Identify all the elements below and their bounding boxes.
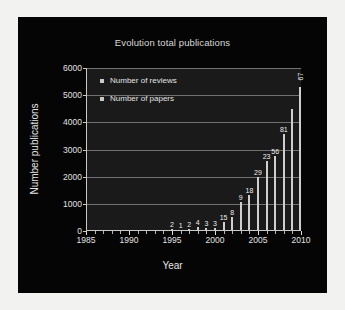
x-tick-minor xyxy=(155,231,156,234)
x-tick-minor xyxy=(112,231,113,234)
bar-papers xyxy=(283,134,285,231)
x-tick-label: 2000 xyxy=(206,235,225,245)
x-tick-label: 1985 xyxy=(77,235,96,245)
x-tick-minor xyxy=(189,231,190,234)
x-axis-line xyxy=(86,230,301,231)
bar-value-label: 4 xyxy=(196,219,200,226)
y-axis-line xyxy=(86,68,87,231)
plot-area: 0100020003000400050006000 19851990199520… xyxy=(86,68,301,231)
bar-value-label: 29 xyxy=(254,169,262,176)
bar-papers xyxy=(248,195,250,231)
x-tick-minor xyxy=(138,231,139,234)
x-tick-minor xyxy=(267,231,268,234)
bar-papers xyxy=(274,156,276,231)
bar-papers xyxy=(240,202,242,231)
x-tick-label: 1990 xyxy=(120,235,139,245)
bar-value-label: 3 xyxy=(204,220,208,227)
x-tick-minor xyxy=(163,231,164,234)
x-tick-label: 1995 xyxy=(163,235,182,245)
bar-papers xyxy=(231,217,233,231)
bar-papers xyxy=(266,161,268,231)
legend-label: Number of reviews xyxy=(110,76,177,85)
y-tick-label: 3000 xyxy=(63,145,82,155)
bar-papers xyxy=(299,87,301,231)
figure-canvas: Evolution total publications Number publ… xyxy=(0,0,345,310)
x-tick-minor xyxy=(224,231,225,234)
x-tick-minor xyxy=(284,231,285,234)
x-tick-minor xyxy=(181,231,182,234)
chart-title: Evolution total publications xyxy=(18,37,327,48)
bar-value-label: 67 xyxy=(297,73,304,81)
bar-value-label: 23 xyxy=(263,153,271,160)
x-tick-minor xyxy=(103,231,104,234)
gridline xyxy=(86,122,301,123)
bar-papers xyxy=(257,177,259,231)
bar-value-label: 3 xyxy=(213,220,217,227)
y-tick-label: 6000 xyxy=(63,63,82,73)
bar-value-label: 9 xyxy=(239,194,243,201)
x-tick-minor xyxy=(275,231,276,234)
bar-value-label: 1 xyxy=(179,222,183,229)
bar-value-label: 2 xyxy=(187,221,191,228)
y-axis-label: Number publications xyxy=(29,103,40,194)
x-tick-minor xyxy=(206,231,207,234)
y-tick-label: 4000 xyxy=(63,117,82,127)
gridline xyxy=(86,177,301,178)
gridline xyxy=(86,204,301,205)
x-tick-label: 2010 xyxy=(292,235,311,245)
bar-value-label: 81 xyxy=(280,126,288,133)
x-tick-minor xyxy=(198,231,199,234)
x-tick-minor xyxy=(146,231,147,234)
x-tick-minor xyxy=(241,231,242,234)
gridline xyxy=(86,68,301,69)
legend-square-marker-icon xyxy=(100,97,104,101)
chart-panel: Evolution total publications Number publ… xyxy=(18,17,327,293)
x-tick-minor xyxy=(292,231,293,234)
bar-value-label: 18 xyxy=(245,187,253,194)
bar-value-label: 56 xyxy=(271,148,279,155)
x-tick-label: 2005 xyxy=(249,235,268,245)
y-tick-label: 1000 xyxy=(63,199,82,209)
bar-value-label: 2 xyxy=(170,221,174,228)
x-tick-minor xyxy=(232,231,233,234)
x-axis-label: Year xyxy=(18,260,327,271)
y-tick-label: 2000 xyxy=(63,172,82,182)
x-tick-minor xyxy=(95,231,96,234)
bar-value-label: 15 xyxy=(220,214,228,221)
legend-item: Number of reviews xyxy=(100,76,177,85)
legend-label: Number of papers xyxy=(110,94,174,103)
chart-legend: Number of reviewsNumber of papers xyxy=(100,76,177,103)
gridline xyxy=(86,150,301,151)
x-tick-minor xyxy=(249,231,250,234)
legend-square-marker-icon xyxy=(100,79,104,83)
legend-item: Number of papers xyxy=(100,94,177,103)
y-tick-label: 5000 xyxy=(63,90,82,100)
bar-value-label: 8 xyxy=(230,209,234,216)
x-tick-minor xyxy=(120,231,121,234)
bar-papers xyxy=(291,109,293,231)
